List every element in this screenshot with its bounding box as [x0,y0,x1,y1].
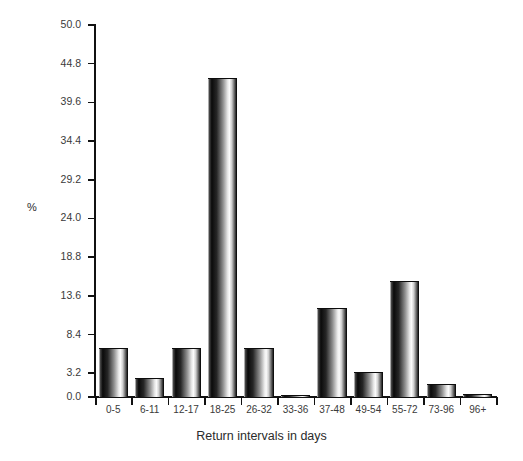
x-axis-tick-mark [350,397,352,405]
x-axis-tick-mark [460,397,462,405]
y-axis-tick-label: 50.0 [35,18,81,30]
y-axis-tick-label: 8.4 [35,328,81,340]
y-axis-tick-label: 24.0 [35,211,81,223]
x-axis-tick-mark [204,397,206,405]
y-axis-tick-label: 0.0 [35,390,81,402]
y-axis-tick-mark [88,63,95,65]
y-axis-tick-mark [88,24,95,26]
x-axis-tick-label: 37-48 [319,404,345,415]
y-axis-tick-mark [88,218,95,220]
y-axis-tick-mark [88,295,95,297]
y-axis-tick-label: 39.6 [35,95,81,107]
bar-chart: % 0.03.28.413.618.824.029.234.439.644.85… [0,0,523,461]
x-axis-tick-label: 49-54 [356,404,382,415]
x-axis-tick-mark [496,397,498,405]
bar [135,378,164,397]
x-axis-tick-label: 55-72 [392,404,418,415]
y-axis-tick-label: 34.4 [35,134,81,146]
y-axis-tick-mark [88,256,95,258]
x-axis-tick-label: 0-5 [106,404,120,415]
y-axis-tick-mark [88,372,95,374]
x-axis-tick-mark [277,397,279,405]
x-axis-tick-mark [95,397,97,405]
x-axis-tick-mark [168,397,170,405]
bars-layer [95,25,496,397]
x-axis-tick-label: 96+ [469,404,486,415]
x-axis-tick-mark [131,397,133,405]
x-axis-tick-label: 6-11 [140,404,159,415]
y-axis-tick-mark [88,179,95,181]
x-axis-tick-mark [387,397,389,405]
bar [354,372,383,397]
bar [99,348,128,397]
bar [317,308,346,397]
x-axis-tick-label: 73-96 [429,404,455,415]
bar [244,348,273,397]
y-axis-tick-mark [88,102,95,104]
bar [208,78,237,397]
bar [390,281,419,397]
bar [172,348,201,397]
bar [427,384,456,397]
bar [463,394,492,397]
x-axis-tick-mark [423,397,425,405]
y-axis-tick-mark [88,396,95,398]
x-axis-tick-label: 26-32 [246,404,272,415]
y-axis-tick-label: 13.6 [35,289,81,301]
x-axis-tick-label: 12-17 [173,404,199,415]
y-axis-tick-label: 44.8 [35,57,81,69]
y-axis-tick-label: 3.2 [35,366,81,378]
y-axis-tick-mark [88,334,95,336]
bar [281,395,310,398]
x-axis-title: Return intervals in days [0,429,523,443]
x-axis-tick-mark [314,397,316,405]
x-axis-tick-mark [241,397,243,405]
x-axis-tick-label: 33-36 [283,404,309,415]
y-axis-tick-label: 29.2 [35,173,81,185]
x-axis-tick-label: 18-25 [210,404,236,415]
y-axis-tick-label: 18.8 [35,250,81,262]
y-axis-tick-mark [88,140,95,142]
